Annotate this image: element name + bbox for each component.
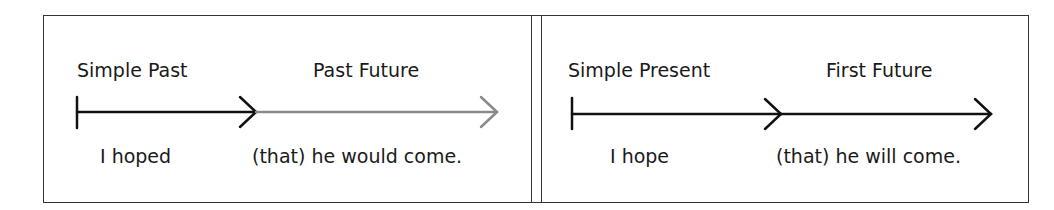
timeline-past <box>77 97 497 128</box>
timeline-arrows <box>0 0 1054 210</box>
timeline-present <box>572 98 991 129</box>
